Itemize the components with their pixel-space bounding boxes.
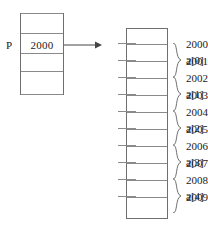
array-element-label: a[1]: [186, 88, 208, 100]
memory-address-tick: [118, 60, 136, 61]
pointer-value-cell: 2000: [20, 36, 64, 54]
array-element-brace: [172, 43, 182, 77]
memory-cell-divider: [127, 163, 167, 164]
memory-address-tick: [118, 43, 136, 44]
points-to-arrow: [64, 38, 102, 52]
memory-address-tick: [118, 128, 136, 129]
memory-address-tick: [118, 94, 136, 95]
pointer-name-label: P: [6, 36, 12, 54]
array-element-brace: [172, 179, 182, 213]
array-element-brace: [172, 111, 182, 145]
array-element-label: a[3]: [186, 156, 208, 168]
pointer-variable-table: [20, 13, 64, 95]
array-element-label: a[4]: [186, 190, 208, 202]
memory-cell-divider: [127, 129, 167, 130]
memory-cell-divider: [127, 44, 167, 45]
memory-cells-column: [126, 28, 168, 219]
pointer-array-memory-diagram: P 2000 2000 2001 2002 2003 2004 2005 200…: [0, 0, 208, 230]
pointer-table-line: [21, 33, 63, 34]
memory-address-tick: [118, 77, 136, 78]
memory-cell-divider: [127, 112, 167, 113]
memory-cell-divider: [127, 61, 167, 62]
memory-cell-divider: [127, 146, 167, 147]
memory-cell-divider: [127, 95, 167, 96]
pointer-table-line: [21, 94, 63, 95]
array-element-brace: [172, 77, 182, 111]
pointer-table-line: [21, 71, 63, 72]
memory-cell-divider: [127, 78, 167, 79]
array-element-label: a[2]: [186, 122, 208, 134]
memory-address-tick: [118, 196, 136, 197]
array-element-label: a[0]: [186, 54, 208, 66]
memory-address-tick: [118, 162, 136, 163]
memory-address-tick: [118, 111, 136, 112]
memory-address-tick: [118, 145, 136, 146]
array-element-brace: [172, 145, 182, 179]
memory-cell-divider: [127, 180, 167, 181]
memory-address-tick: [118, 179, 136, 180]
memory-cell-divider: [127, 197, 167, 198]
pointer-table-line: [21, 13, 63, 14]
